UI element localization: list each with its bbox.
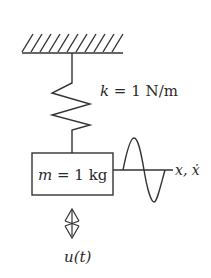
double-arrow-icon: [65, 209, 79, 238]
state-xdot: ẋ: [192, 162, 200, 178]
spring-var: k: [100, 82, 109, 100]
state-x: x: [175, 162, 183, 178]
state-label: x, ẋ: [175, 162, 200, 178]
spring-constant-label: k = 1 N/m: [100, 82, 178, 100]
mass-label: m = 1 kg: [38, 166, 108, 184]
ground-support: [22, 34, 123, 53]
spring: [52, 53, 90, 153]
mass-value: = 1 kg: [52, 166, 108, 184]
spring-value: = 1 N/m: [109, 82, 178, 100]
input-label: u(t): [64, 248, 92, 266]
state-sep: ,: [183, 162, 192, 178]
spring-mass-diagram: k = 1 N/m m = 1 kg x, ẋ u(t): [0, 0, 211, 278]
mass-var: m: [38, 166, 52, 184]
